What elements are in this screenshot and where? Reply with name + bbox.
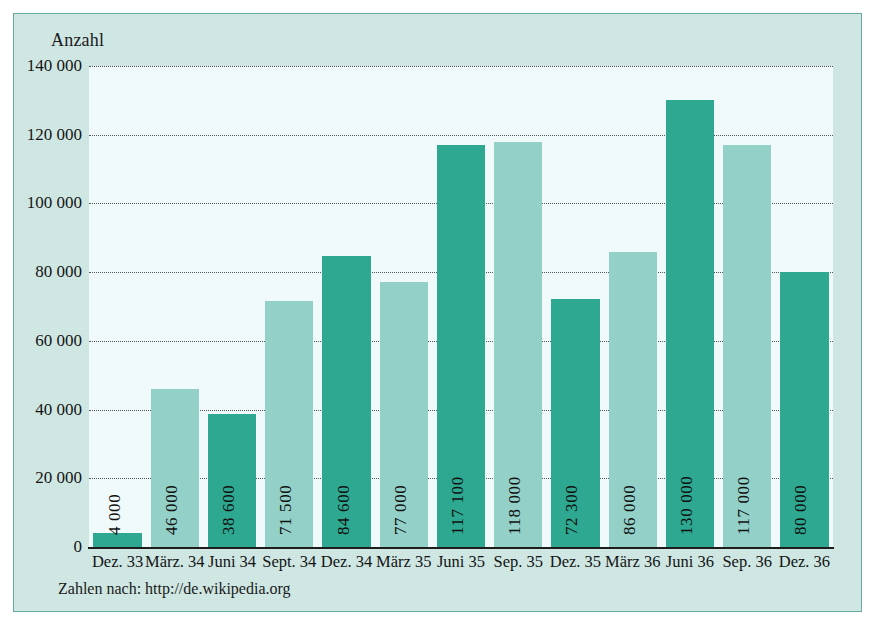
x-axis-tick-label: Sep. 35: [493, 552, 543, 572]
y-axis-tick-label: 20 000: [35, 468, 82, 488]
y-axis-tick-label: 0: [74, 537, 83, 557]
bar-value-label-wrap: 4 000: [93, 415, 141, 535]
y-axis-tick-label: 80 000: [35, 262, 82, 282]
y-axis-tick-label: 40 000: [35, 400, 82, 420]
gridline: [89, 66, 833, 67]
bar: [437, 145, 485, 547]
bar: [494, 142, 542, 547]
x-axis-tick-labels: Dez. 33März. 34Juni 34Sept. 34Dez. 34Mär…: [89, 552, 833, 578]
plot-area: 4 00046 00038 60071 50084 60077 000117 1…: [89, 66, 833, 547]
bar: [723, 145, 771, 547]
x-axis-tick-label: Dez. 33: [92, 552, 143, 572]
x-axis-tick-label: Juni 35: [437, 552, 485, 572]
bar: [208, 414, 256, 547]
x-axis-tick-label: Dez. 36: [779, 552, 830, 572]
x-axis-tick-label: Dez. 34: [321, 552, 372, 572]
y-axis-tick-label: 140 000: [27, 56, 82, 76]
x-axis-tick-label: Juni 36: [666, 552, 714, 572]
y-axis-tick-label: 100 000: [27, 193, 82, 213]
x-axis-tick-label: Dez. 35: [550, 552, 601, 572]
x-axis-tick-label: März. 34: [145, 552, 205, 572]
bar: [780, 272, 828, 547]
y-axis-tick-label: 60 000: [35, 331, 82, 351]
figure-panel: Anzahl 020 00040 00060 00080 000100 0001…: [13, 13, 862, 612]
x-axis-tick-label: Juni 34: [208, 552, 256, 572]
bar: [151, 389, 199, 547]
y-axis-tick-labels: 020 00040 00060 00080 000100 000120 0001…: [14, 14, 82, 611]
bar-value-label: 4 000: [105, 494, 125, 535]
bar: [666, 100, 714, 547]
x-axis-tick-label: Sept. 34: [262, 552, 316, 572]
x-axis-tick-label: März 35: [376, 552, 431, 572]
y-axis-tick-label: 120 000: [27, 125, 82, 145]
x-axis-tick-label: März 36: [605, 552, 660, 572]
bar: [609, 252, 657, 547]
bar: [380, 282, 428, 547]
bar: [93, 533, 141, 547]
bar: [265, 301, 313, 547]
bar: [551, 299, 599, 547]
x-axis-tick-label: Sep. 36: [722, 552, 772, 572]
gridline: [89, 135, 833, 136]
x-axis-line: [88, 547, 834, 549]
source-footnote: Zahlen nach: http://de.wikipedia.org: [58, 580, 291, 598]
bar: [322, 256, 370, 547]
